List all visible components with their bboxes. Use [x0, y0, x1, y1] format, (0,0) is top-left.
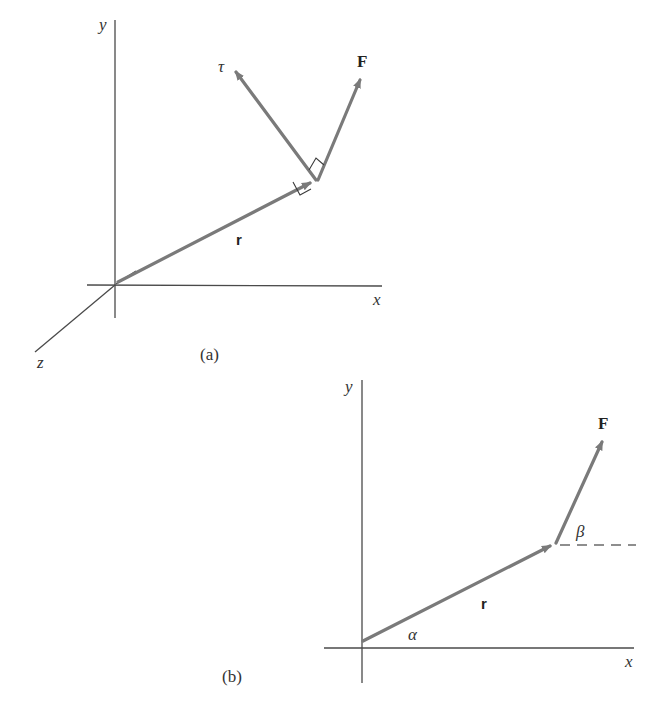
torque-diagram: y x z r F τ (a) y x r F α β (b) — [0, 0, 665, 716]
y-axis-label-b: y — [343, 377, 353, 396]
tau-label-a: τ — [218, 57, 225, 76]
y-axis-label-a: y — [97, 15, 107, 34]
x-axis-label-b: x — [624, 652, 633, 671]
x-axis-label-a: x — [372, 290, 381, 309]
figure-b: y x r F α β (b) — [222, 377, 636, 686]
beta-angle-label: β — [575, 522, 585, 541]
F-label-b: F — [598, 414, 608, 433]
figure-a: y x z r F τ (a) — [35, 15, 382, 372]
z-axis-a — [35, 285, 115, 352]
r-label-b: r — [481, 595, 487, 612]
alpha-angle-label: α — [408, 625, 418, 644]
z-axis-label-a: z — [36, 353, 44, 372]
caption-a: (a) — [200, 345, 219, 364]
tau-vector-a — [236, 72, 316, 180]
F-label-a: F — [357, 52, 367, 71]
r-label-a: r — [236, 231, 242, 248]
x-axis-a — [87, 285, 382, 286]
caption-b: (b) — [222, 667, 242, 686]
r-vector-b — [363, 546, 550, 641]
F-vector-a — [318, 80, 360, 180]
r-vector-a — [118, 183, 310, 282]
